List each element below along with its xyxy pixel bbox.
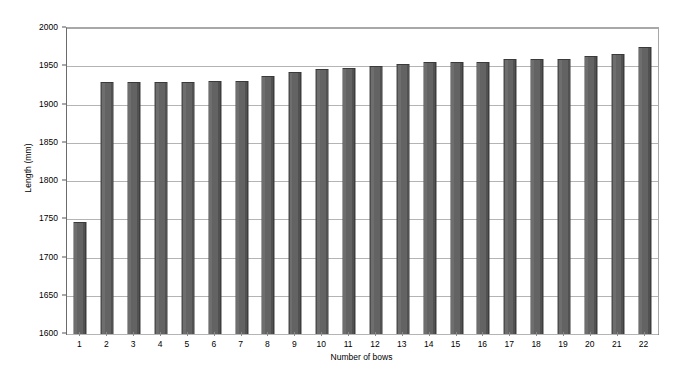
bar-slot — [497, 28, 524, 334]
x-axis-tick-label: 7 — [238, 339, 243, 349]
bar-slot — [416, 28, 443, 334]
x-axis-tick-label: 10 — [316, 339, 325, 349]
x-axis-tick-label: 14 — [424, 339, 433, 349]
x-axis-tick-label: 22 — [639, 339, 648, 349]
x-axis-tick-mark — [429, 332, 430, 336]
x-axis-tick-mark — [456, 332, 457, 336]
x-axis-tick-mark — [536, 332, 537, 336]
x-axis-tick-label: 2 — [104, 339, 109, 349]
x-axis-tick-labels: 12345678910111213141516171819202122 — [66, 336, 657, 352]
bar-slot — [255, 28, 282, 334]
y-axis-tick-label: 1750 — [39, 213, 58, 223]
x-axis-tick-mark — [402, 332, 403, 336]
x-axis-tick-label: 9 — [292, 339, 297, 349]
x-axis-tick-mark — [267, 332, 268, 336]
bar[interactable] — [504, 59, 517, 334]
bar-slot — [67, 28, 94, 334]
bar[interactable] — [128, 82, 141, 334]
bar[interactable] — [181, 82, 194, 334]
plot-area — [66, 27, 659, 335]
x-axis-tick-mark — [241, 332, 242, 336]
x-axis-tick-label: 15 — [451, 339, 460, 349]
bar-slot — [577, 28, 604, 334]
bar[interactable] — [289, 72, 302, 334]
bar[interactable] — [262, 76, 275, 334]
bar-chart: Length (mm) 1600165017001750180018501900… — [0, 0, 677, 384]
x-axis-tick-label: 6 — [211, 339, 216, 349]
x-axis-tick-mark — [509, 332, 510, 336]
bar-slot — [228, 28, 255, 334]
x-axis-tick-mark — [644, 332, 645, 336]
bars-layer — [67, 28, 658, 334]
bar-slot — [336, 28, 363, 334]
gridline — [67, 334, 658, 335]
x-axis-tick-label: 16 — [478, 339, 487, 349]
bar[interactable] — [369, 66, 382, 334]
bar[interactable] — [557, 59, 570, 334]
bar-slot — [309, 28, 336, 334]
bar[interactable] — [450, 62, 463, 334]
bar[interactable] — [477, 62, 490, 334]
bar[interactable] — [101, 82, 114, 334]
bar[interactable] — [74, 222, 87, 334]
x-axis-tick-label: 12 — [370, 339, 379, 349]
bar[interactable] — [584, 56, 597, 334]
y-axis-tick-label: 2000 — [39, 22, 58, 32]
bar-slot — [470, 28, 497, 334]
x-axis-tick-mark — [214, 332, 215, 336]
bar-slot — [631, 28, 658, 334]
x-axis-tick-label: 8 — [265, 339, 270, 349]
x-axis-tick-mark — [321, 332, 322, 336]
bar-slot — [148, 28, 175, 334]
x-axis-tick-mark — [590, 332, 591, 336]
x-axis-tick-mark — [79, 332, 80, 336]
bar[interactable] — [531, 59, 544, 334]
x-axis-tick-label: 18 — [531, 339, 540, 349]
bar[interactable] — [235, 81, 248, 334]
x-axis-tick-mark — [563, 332, 564, 336]
x-axis-tick-label: 19 — [558, 339, 567, 349]
bar[interactable] — [423, 62, 436, 334]
y-axis-tick-label: 1950 — [39, 60, 58, 70]
x-axis-tick-mark — [348, 332, 349, 336]
y-axis-tick-label: 1650 — [39, 290, 58, 300]
x-axis-tick-mark — [133, 332, 134, 336]
x-axis-tick-mark — [106, 332, 107, 336]
bar-slot — [604, 28, 631, 334]
y-axis-tick-label: 1700 — [39, 252, 58, 262]
x-axis-tick-label: 17 — [505, 339, 514, 349]
bar-slot — [389, 28, 416, 334]
x-axis-tick-mark — [294, 332, 295, 336]
bar[interactable] — [638, 47, 651, 334]
x-axis-tick-mark — [160, 332, 161, 336]
x-axis-tick-label: 1 — [77, 339, 82, 349]
x-axis-tick-mark — [375, 332, 376, 336]
bar[interactable] — [155, 82, 168, 334]
x-axis-tick-label: 3 — [131, 339, 136, 349]
bar-slot — [201, 28, 228, 334]
bar[interactable] — [396, 64, 409, 334]
y-axis-tick-label: 1850 — [39, 137, 58, 147]
bar-slot — [94, 28, 121, 334]
bar[interactable] — [208, 81, 221, 334]
bar-slot — [551, 28, 578, 334]
bar-slot — [363, 28, 390, 334]
bar-slot — [121, 28, 148, 334]
x-axis-tick-label: 11 — [344, 339, 353, 349]
bar-slot — [282, 28, 309, 334]
x-axis-tick-label: 20 — [585, 339, 594, 349]
x-axis-tick-mark — [617, 332, 618, 336]
x-axis-title: Number of bows — [66, 352, 657, 362]
x-axis-tick-mark — [482, 332, 483, 336]
y-axis-tick-labels: 160016501700175018001850190019502000 — [30, 21, 62, 339]
bar[interactable] — [343, 68, 356, 334]
y-axis-tick-label: 1800 — [39, 175, 58, 185]
bar[interactable] — [316, 69, 329, 334]
x-axis-tick-mark — [187, 332, 188, 336]
y-axis-tick-label: 1600 — [39, 328, 58, 338]
bar-slot — [524, 28, 551, 334]
bar-slot — [443, 28, 470, 334]
y-axis-tick-label: 1900 — [39, 99, 58, 109]
bar[interactable] — [611, 54, 624, 334]
x-axis-tick-label: 4 — [158, 339, 163, 349]
